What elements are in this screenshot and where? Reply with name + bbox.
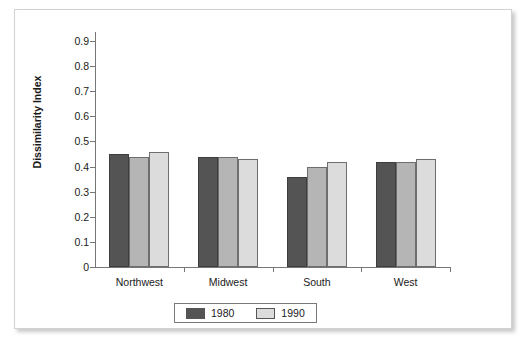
bar-west-2	[396, 162, 416, 267]
x-axis-tick-mark	[273, 267, 274, 272]
x-axis-tick-mark	[450, 267, 451, 272]
y-axis-tick-mark	[90, 217, 95, 218]
x-axis-category-label: West	[346, 276, 466, 288]
plot-area: Dissimilarity Index 00.10.20.30.40.50.60…	[15, 10, 513, 330]
y-axis-tick-label: 0.4	[37, 162, 89, 172]
bar-midwest-2	[218, 157, 238, 267]
bar-northwest-3	[149, 152, 169, 268]
y-axis-tick-label: 0.9	[37, 36, 89, 46]
y-axis-tick-mark	[90, 116, 95, 117]
chart-legend: 19801990	[174, 303, 317, 323]
y-axis-tick-mark	[90, 66, 95, 67]
bar-northwest-1	[109, 154, 129, 267]
y-axis-tick-label: 0.6	[37, 111, 89, 121]
bar-west-3	[416, 159, 436, 267]
y-axis-tick-mark	[90, 242, 95, 243]
y-axis-tick-label: 0.5	[37, 136, 89, 146]
x-axis-tick-mark	[361, 267, 362, 272]
legend-label: 1980	[211, 308, 234, 318]
y-axis-line	[95, 32, 96, 267]
y-axis-tick-label: 0.8	[37, 61, 89, 71]
y-axis-tick-mark	[90, 41, 95, 42]
y-axis-tick-label: 0.1	[37, 237, 89, 247]
y-axis-tick-label: 0.7	[37, 86, 89, 96]
y-axis-tick-mark	[90, 192, 95, 193]
bar-northwest-2	[129, 157, 149, 267]
legend-label: 1990	[281, 308, 304, 318]
y-axis-tick-label: 0.2	[37, 212, 89, 222]
legend-swatch-icon	[186, 308, 205, 319]
x-axis-tick-mark	[184, 267, 185, 272]
bar-south-1	[287, 177, 307, 267]
bar-south-3	[327, 162, 347, 267]
bar-west-1	[376, 162, 396, 267]
y-axis-tick-mark	[90, 91, 95, 92]
y-axis-tick-mark	[90, 167, 95, 168]
y-axis-tick-label: 0.3	[37, 187, 89, 197]
legend-entry-1990: 1990	[256, 308, 304, 319]
y-axis-tick-mark	[90, 267, 95, 268]
legend-swatch-icon	[256, 308, 275, 319]
chart-figure-card: Dissimilarity Index 00.10.20.30.40.50.60…	[14, 9, 512, 329]
bar-south-2	[307, 167, 327, 267]
bar-midwest-1	[198, 157, 218, 267]
bar-midwest-3	[238, 159, 258, 267]
legend-entry-1980: 1980	[186, 308, 234, 319]
y-axis-tick-mark	[90, 141, 95, 142]
y-axis-tick-label: 0	[37, 262, 89, 272]
